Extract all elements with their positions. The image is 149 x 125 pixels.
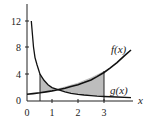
y-tick-label-0: 0 <box>16 95 21 106</box>
shaded-area <box>40 71 104 97</box>
x-tick-label-0: 0 <box>25 107 30 118</box>
x-axis-label: x <box>137 94 143 106</box>
x-tick-label-3: 3 <box>102 107 107 118</box>
chart: 0 1 2 3 0 4 8 12 f(x) g(x) x <box>0 0 149 125</box>
y-tick-label-12: 12 <box>11 16 21 27</box>
y-tick-label-8: 8 <box>16 42 21 53</box>
y-tick-label-4: 4 <box>16 69 21 80</box>
x-tick-label-1: 1 <box>50 107 55 118</box>
g-label: g(x) <box>110 84 128 97</box>
x-tick-label-2: 2 <box>76 107 81 118</box>
f-label: f(x) <box>111 43 127 56</box>
